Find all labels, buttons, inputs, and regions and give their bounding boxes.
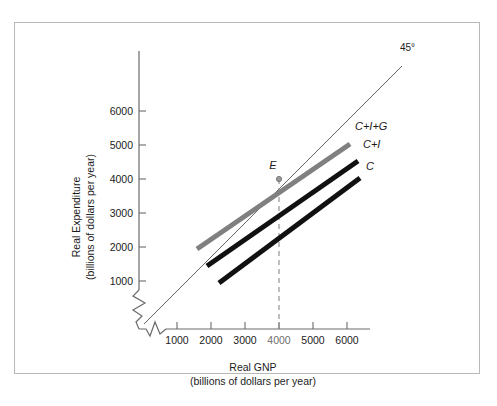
x-tick-label-5000: 5000 [301,334,325,346]
x-axis-ticks [177,322,347,329]
x-tick-label-3000: 3000 [233,334,257,346]
curve-label-c-plus-i: C+I [363,138,380,150]
curve-label-c: C [366,160,374,172]
x-tick-label-6000: 6000 [335,334,359,346]
keynesian-cross-chart: 6000 5000 4000 3000 2000 1000 1000 2000 … [0,0,497,406]
x-tick-label-1000: 1000 [165,334,189,346]
curve-c [219,178,360,283]
y-tick-label-5000: 5000 [110,139,134,151]
x-axis-title: Real GNP [229,361,276,373]
x-tick-label-4000: 4000 [267,334,291,346]
y-tick-label-4000: 4000 [110,173,134,185]
x-tick-label-2000: 2000 [199,334,223,346]
y-axis-title: Real Expenditure [70,177,82,258]
x-axis-tick-labels: 1000 2000 3000 4000 5000 6000 [165,334,359,346]
equilibrium-point-marker [276,176,281,181]
forty-five-degree-label: 45° [400,42,415,53]
y-tick-label-3000: 3000 [110,207,134,219]
curve-c-plus-i [207,161,358,266]
y-tick-label-1000: 1000 [110,275,134,287]
y-axis-break-zigzag [133,290,145,329]
x-axis-break-zigzag [139,322,166,336]
y-tick-label-2000: 2000 [110,241,134,253]
curve-label-c-plus-i-plus-g: C+I+G [355,120,388,132]
y-axis-tick-labels: 6000 5000 4000 3000 2000 1000 [110,105,134,287]
y-axis-ticks [139,111,146,281]
equilibrium-point-label: E [269,159,277,171]
y-axis-subtitle: (billions of dollars per year) [84,154,96,280]
figure-root: 6000 5000 4000 3000 2000 1000 1000 2000 … [0,0,497,406]
x-axis-subtitle: (billions of dollars per year) [190,375,316,387]
y-tick-label-6000: 6000 [110,105,134,117]
